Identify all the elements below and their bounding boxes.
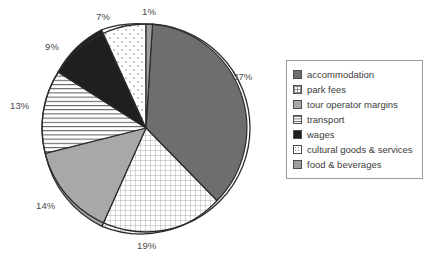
legend-swatch-transport bbox=[293, 115, 302, 124]
pie-svg bbox=[0, 0, 290, 263]
legend-item-transport[interactable]: transport bbox=[293, 112, 417, 127]
legend-label-food-beverages: food & beverages bbox=[307, 159, 381, 170]
pie-chart: 37% 19% 14% 13% 9% 7% 1% accommodation p… bbox=[0, 0, 431, 263]
legend-label-cultural-goods-services: cultural goods & services bbox=[307, 144, 413, 155]
legend-item-tour-operator-margins[interactable]: tour operator margins bbox=[293, 97, 417, 112]
legend-item-park-fees[interactable]: park fees bbox=[293, 82, 417, 97]
legend-item-cultural-goods-services[interactable]: cultural goods & services bbox=[293, 142, 417, 157]
legend-label-wages: wages bbox=[307, 129, 334, 140]
legend-swatch-accommodation bbox=[293, 70, 302, 79]
pie-label-cultural-goods-services: 7% bbox=[96, 11, 110, 22]
legend-label-transport: transport bbox=[307, 114, 345, 125]
legend-swatch-food-beverages bbox=[293, 160, 302, 169]
legend-label-park-fees: park fees bbox=[307, 84, 346, 95]
chart-legend: accommodation park fees tour operator ma… bbox=[286, 60, 423, 179]
pie-label-park-fees: 19% bbox=[137, 240, 156, 251]
legend-item-wages[interactable]: wages bbox=[293, 127, 417, 142]
legend-swatch-cultural-goods-services bbox=[293, 145, 302, 154]
legend-swatch-tour-operator-margins bbox=[293, 100, 302, 109]
pie-label-food-beverages: 1% bbox=[142, 6, 156, 17]
pie-label-tour-operator-margins: 14% bbox=[36, 200, 55, 211]
pie-label-transport: 13% bbox=[10, 100, 29, 111]
pie-label-wages: 9% bbox=[45, 41, 59, 52]
legend-label-tour-operator-margins: tour operator margins bbox=[307, 99, 398, 110]
pie-label-accommodation: 37% bbox=[233, 71, 252, 82]
legend-item-accommodation[interactable]: accommodation bbox=[293, 67, 417, 82]
legend-swatch-wages bbox=[293, 130, 302, 139]
legend-swatch-park-fees bbox=[293, 85, 302, 94]
legend-item-food-beverages[interactable]: food & beverages bbox=[293, 157, 417, 172]
legend-label-accommodation: accommodation bbox=[307, 69, 374, 80]
pie-plot-area: 37% 19% 14% 13% 9% 7% 1% bbox=[0, 0, 290, 263]
